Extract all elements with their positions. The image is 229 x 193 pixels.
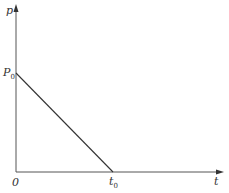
- y-axis-label: p: [6, 5, 13, 16]
- p0-sub: 0: [10, 73, 14, 81]
- p0-tick-label: P0: [3, 67, 15, 81]
- y-axis-arrow-icon: [14, 4, 19, 12]
- t0-tick-label: t0: [109, 176, 118, 190]
- x-axis-label: t: [214, 176, 218, 187]
- origin-label: 0: [12, 177, 19, 188]
- t0-sub: 0: [113, 182, 117, 190]
- chart-plot: [0, 0, 229, 193]
- x-axis-arrow-icon: [216, 170, 224, 175]
- data-line: [16, 73, 113, 172]
